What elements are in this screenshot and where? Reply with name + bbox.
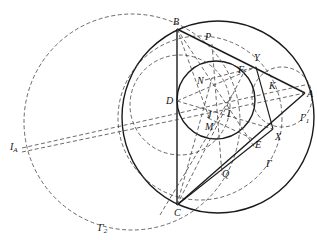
label-F: F bbox=[237, 64, 245, 75]
line-IA-D bbox=[22, 85, 305, 148]
line-P-Q bbox=[212, 44, 222, 175]
segment-CA bbox=[177, 93, 305, 205]
label-P: P bbox=[204, 31, 211, 42]
line-IA-A bbox=[22, 93, 305, 152]
label-gamma2: Γ2 bbox=[97, 222, 108, 235]
geometry-figure: B P Y F N K A D J I M X E Q C IA Γ Γ1 Γ2 bbox=[0, 0, 317, 240]
label-D: D bbox=[165, 95, 174, 106]
label-gamma: Γ bbox=[265, 158, 272, 169]
label-IA: IA bbox=[9, 141, 18, 154]
label-A: A bbox=[306, 88, 314, 99]
label-K: K bbox=[268, 80, 277, 91]
label-M: M bbox=[204, 121, 214, 132]
line-B-E bbox=[177, 29, 255, 148]
line-C-F bbox=[177, 70, 245, 205]
diagram-canvas: B P Y F N K A D J I M X E Q C IA Γ Γ1 Γ2 bbox=[0, 0, 317, 240]
line-D-X bbox=[177, 101, 273, 129]
label-N: N bbox=[196, 75, 205, 86]
label-I: I bbox=[226, 108, 231, 119]
label-Y: Y bbox=[254, 52, 261, 63]
line-C-N bbox=[177, 78, 212, 205]
label-gamma1: Γ1 bbox=[299, 112, 309, 125]
label-C: C bbox=[174, 207, 181, 218]
label-E: E bbox=[254, 139, 261, 150]
label-Q: Q bbox=[222, 168, 230, 179]
label-J: J bbox=[207, 109, 212, 120]
label-X: X bbox=[274, 131, 282, 142]
label-B: B bbox=[173, 16, 179, 27]
